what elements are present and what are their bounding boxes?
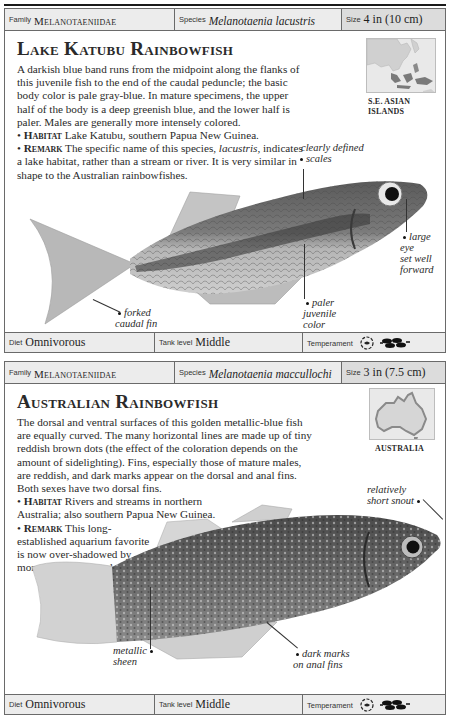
remark-italic: lacustris, xyxy=(219,142,260,154)
callout-eye-line1-row: large eye xyxy=(400,231,445,253)
map-region-label: S.E. ASIAN ISLANDS xyxy=(368,97,410,117)
australian-rainbowfish-image xyxy=(17,497,449,677)
remark-label: Remark xyxy=(24,142,63,154)
callout-dot-icon xyxy=(150,650,153,653)
species-card-lake-katubu: Family Melanotaeniidae Species Melanotae… xyxy=(4,8,446,353)
callout-anal: dark marks on anal fins xyxy=(293,648,350,670)
size-value: 3 in (7.5 cm) xyxy=(364,365,426,380)
temperament-icons xyxy=(360,698,410,712)
card-header: Family Melanotaeniidae Species Melanotae… xyxy=(5,362,445,384)
map-label-line1: S.E. ASIAN xyxy=(368,97,410,107)
temperament-label: Temperament xyxy=(307,339,353,348)
callout-scales-line1: clearly defined xyxy=(301,142,364,153)
callout-sheen-line1: metallic xyxy=(113,645,147,656)
callout-eye: large eye set well forward xyxy=(400,231,445,275)
species-cell: Species Melanotaenia lacustris xyxy=(175,9,342,30)
region-map xyxy=(366,38,436,93)
callout-anal-line2: on anal fins xyxy=(293,659,350,670)
asia-map-icon xyxy=(367,39,436,93)
callout-dot-icon xyxy=(300,158,303,161)
callout-anal-line1: dark marks xyxy=(302,648,350,659)
size-value: 4 in (10 cm) xyxy=(364,12,423,27)
remark-text-1: The specific name of this species, xyxy=(65,142,219,154)
top-rule xyxy=(4,4,446,6)
callout-snout-line2: short snout xyxy=(367,495,414,506)
callout-eye-line2: set well xyxy=(400,253,445,264)
card-footer: Diet Omnivorous Tank level Middle Temper… xyxy=(5,332,445,352)
callout-caudal-line2: caudal fin xyxy=(115,318,157,329)
habitat-text: Lake Katubu, southern Papua New Guinea. xyxy=(65,129,259,141)
tank-level-value: Middle xyxy=(195,697,230,712)
map-label-line2: ISLANDS xyxy=(368,107,410,117)
diet-label: Diet xyxy=(9,338,22,347)
callout-snout: relatively short snout xyxy=(367,484,423,506)
callout-scales-line2: scales xyxy=(306,153,332,164)
description-text: The dorsal and ventral surfaces of this … xyxy=(17,416,313,495)
family-cell: Family Melanotaeniidae xyxy=(5,362,175,383)
family-label: Family xyxy=(9,368,31,377)
map-region-label: AUSTRALIA xyxy=(375,444,424,454)
temperament-label: Temperament xyxy=(307,701,353,710)
leader-line-scales xyxy=(303,169,304,199)
callout-caudal: forked caudal fin xyxy=(115,307,157,329)
callout-scales-line2-row: scales xyxy=(297,153,364,164)
size-cell: Size 4 in (10 cm) xyxy=(342,9,445,30)
diet-label: Diet xyxy=(9,700,22,709)
callout-dot-icon xyxy=(417,500,420,503)
australia-map-icon xyxy=(370,389,435,440)
region-map xyxy=(369,388,435,440)
temperament-cell: Temperament xyxy=(303,695,445,714)
leader-line-eye xyxy=(406,199,407,232)
size-cell: Size 3 in (7.5 cm) xyxy=(342,362,445,383)
callout-snout-line2-row: short snout xyxy=(367,495,423,506)
size-label: Size xyxy=(346,15,361,24)
callout-dot-icon xyxy=(296,653,299,656)
species-cell: Species Melanotaenia maccullochi xyxy=(175,362,342,383)
callout-juvenile-line3: color xyxy=(303,319,336,330)
callout-dot-icon xyxy=(403,236,406,239)
diet-value: Omnivorous xyxy=(25,697,85,712)
temperament-cell: Temperament xyxy=(303,333,445,352)
species-card-australian: Family Melanotaeniidae Species Melanotae… xyxy=(4,361,446,715)
species-label: Species xyxy=(179,15,206,24)
family-label: Family xyxy=(9,15,31,24)
callout-juvenile-line1-row: paler xyxy=(303,297,336,308)
card-footer: Diet Omnivorous Tank level Middle Temper… xyxy=(5,694,445,714)
diet-cell: Diet Omnivorous xyxy=(5,333,155,352)
leader-line-sheen xyxy=(150,587,151,649)
tank-level-label: Tank level xyxy=(159,700,192,709)
callout-anal-line1-row: dark marks xyxy=(293,648,350,659)
callout-sheen-line2: sheen xyxy=(113,656,156,667)
peaceful-fish-icon xyxy=(360,698,374,712)
lake-katubu-rainbowfish-image xyxy=(25,164,445,329)
species-title: Australian Rainbowfish xyxy=(17,391,218,413)
callout-juvenile-line2: juvenile xyxy=(303,308,336,319)
callout-caudal-line1: forked xyxy=(124,307,151,318)
diet-cell: Diet Omnivorous xyxy=(5,695,155,714)
callout-caudal-line1-row: forked xyxy=(115,307,157,318)
species-value: Melanotaenia lacustris xyxy=(209,15,315,27)
family-value: Melanotaeniidae xyxy=(34,368,116,380)
card-header: Family Melanotaeniidae Species Melanotae… xyxy=(5,9,445,31)
temperament-icons xyxy=(360,336,410,350)
species-value: Melanotaenia maccullochi xyxy=(209,368,332,380)
peaceful-fish-icon xyxy=(360,336,374,350)
description-text: A darkish blue band runs from the midpoi… xyxy=(17,63,307,129)
callout-snout-line1: relatively xyxy=(367,484,423,495)
tank-level-value: Middle xyxy=(195,335,230,350)
callout-juvenile-line1: paler xyxy=(312,297,334,308)
school-group-icon xyxy=(380,699,410,711)
species-title: Lake Katubu Rainbowfish xyxy=(17,38,233,60)
callout-eye-line1: large eye xyxy=(400,231,431,253)
callout-scales: clearly defined scales xyxy=(301,142,364,164)
size-label: Size xyxy=(346,368,361,377)
leader-line-juvenile xyxy=(304,244,305,299)
family-cell: Family Melanotaeniidae xyxy=(5,9,175,30)
habitat-line: • Habitat Lake Katubu, southern Papua Ne… xyxy=(17,129,307,142)
diet-value: Omnivorous xyxy=(25,335,85,350)
habitat-label: Habitat xyxy=(24,129,62,141)
tank-level-cell: Tank level Middle xyxy=(155,333,303,352)
tank-level-cell: Tank level Middle xyxy=(155,695,303,714)
species-label: Species xyxy=(179,368,206,377)
callout-dot-icon xyxy=(306,302,309,305)
